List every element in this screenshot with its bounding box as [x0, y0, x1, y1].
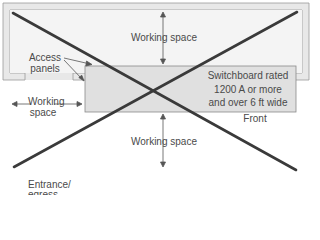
- label-access-1: Access: [28, 52, 62, 63]
- label-working-left-1: Working: [28, 96, 58, 107]
- label-working-space-bottom: Working space: [131, 136, 197, 147]
- label-access-2: panels: [28, 63, 62, 74]
- label-switchboard-1: Switchboard rated: [203, 70, 293, 81]
- label-working-space-top: Working space: [131, 32, 197, 43]
- label-front: Front: [240, 113, 270, 124]
- label-working-left-2: space: [28, 107, 58, 118]
- label-switchboard-2: 1200 A or more: [203, 84, 293, 95]
- label-entrance-2: egress: [28, 189, 74, 195]
- label-switchboard-3: and over 6 ft wide: [203, 97, 293, 108]
